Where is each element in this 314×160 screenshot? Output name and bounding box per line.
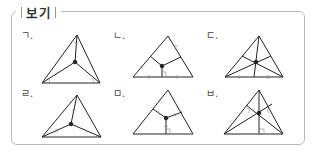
figure-2-perpendicular-bisectors (133, 36, 193, 79)
figures (0, 0, 314, 160)
figure-6-altitudes (224, 90, 283, 134)
figure-4-equal-segments (42, 95, 101, 137)
figure-3-medians (225, 36, 283, 79)
figure-5-equal-perpendiculars (133, 90, 193, 134)
figure-1-angle-bisectors (42, 35, 100, 83)
